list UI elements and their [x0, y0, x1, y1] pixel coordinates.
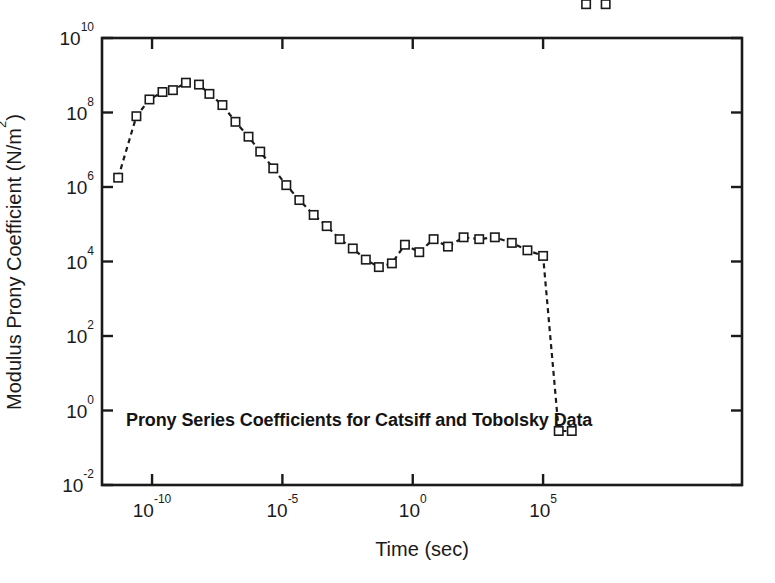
data-point-marker [205, 90, 213, 98]
data-point-marker [375, 263, 383, 271]
y-tick-label: 10-2 [38, 476, 94, 495]
y-axis-title-exponent: 2 [0, 121, 9, 128]
data-point-marker [295, 196, 303, 204]
y-tick-label: 100 [38, 401, 94, 420]
data-point-marker [475, 235, 483, 243]
data-point-marker [601, 0, 609, 8]
y-tick-label: 1010 [38, 29, 94, 48]
x-tick-label: 105 [529, 501, 557, 520]
data-point-marker [349, 244, 357, 252]
data-point-marker [114, 173, 122, 181]
data-point-marker [145, 95, 153, 103]
x-tick-label: 10-10 [133, 501, 171, 520]
data-point-marker [132, 112, 140, 120]
data-point-marker [244, 133, 252, 141]
data-point-marker [401, 241, 409, 249]
chart-figure: 10-1010-5100105 101010810610410210010-2 … [0, 0, 775, 583]
data-point-marker [582, 0, 590, 8]
y-tick-label: 108 [38, 103, 94, 122]
y-tick-label: 106 [38, 178, 94, 197]
data-point-marker [169, 86, 177, 94]
x-tick-label: 10-5 [266, 501, 298, 520]
data-point-marker [182, 79, 190, 87]
data-point-marker [323, 222, 331, 230]
y-tick-label: 102 [38, 327, 94, 346]
x-tick-label: 100 [399, 501, 427, 520]
data-point-marker [429, 235, 437, 243]
data-point-marker [309, 211, 317, 219]
data-point-marker [362, 255, 370, 263]
plot-canvas [0, 0, 775, 583]
data-point-marker [388, 259, 396, 267]
data-point-marker [256, 147, 264, 155]
data-point-marker [491, 233, 499, 241]
x-axis-title: Time (sec) [375, 538, 469, 561]
data-point-marker [158, 88, 166, 96]
y-tick-label: 104 [38, 252, 94, 271]
data-point-marker [539, 252, 547, 260]
y-axis-title-tail: ) [3, 114, 25, 121]
data-point-marker [523, 246, 531, 254]
data-point-marker [195, 80, 203, 88]
data-point-marker [336, 235, 344, 243]
data-point-marker [444, 242, 452, 250]
data-point-marker [415, 248, 423, 256]
data-point-marker [231, 118, 239, 126]
data-point-marker [269, 164, 277, 172]
data-point-marker [282, 181, 290, 189]
data-point-marker [218, 101, 226, 109]
y-axis-title: Modulus Prony Coefficient (N/m2) [3, 114, 26, 410]
data-point-marker [459, 233, 467, 241]
data-point-marker [508, 239, 516, 247]
y-axis-title-text: Modulus Prony Coefficient (N/m [3, 128, 25, 410]
plot-annotation: Prony Series Coefficients for Catsiff an… [126, 410, 592, 431]
